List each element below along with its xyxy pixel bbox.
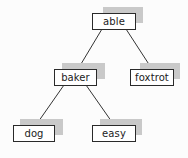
tree-diagram: able baker foxtrot dog easy	[0, 0, 188, 158]
node-label-able: able	[103, 16, 125, 27]
node-baker: baker	[54, 69, 97, 86]
node-label-foxtrot: foxtrot	[135, 72, 169, 83]
node-dog: dog	[13, 125, 55, 142]
node-label-dog: dog	[24, 128, 43, 139]
node-foxtrot: foxtrot	[130, 69, 174, 86]
node-label-baker: baker	[61, 72, 90, 83]
node-able: able	[92, 13, 136, 30]
node-easy: easy	[92, 125, 136, 142]
node-label-easy: easy	[102, 128, 126, 139]
